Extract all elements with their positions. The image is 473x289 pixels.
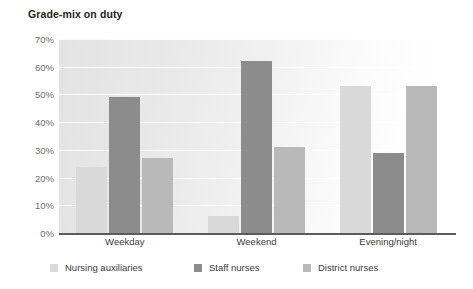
x-axis-line [59,233,456,235]
bar [76,167,107,234]
legend-swatch-icon [194,264,202,272]
y-axis-tick-label: 20% [2,172,54,183]
bar [340,86,371,233]
legend-swatch-icon [50,264,58,272]
chart-legend: Nursing auxiliariesStaff nursesDistrict … [0,262,473,278]
y-axis-tick-label: 70% [2,34,54,45]
legend-swatch-icon [303,264,311,272]
bar-group [340,39,437,233]
bar [274,147,305,233]
x-axis-labels: WeekdayWeekendEvening/night [59,236,454,252]
bar [241,61,272,233]
bar [373,153,404,233]
y-axis-tick-label: 50% [2,89,54,100]
x-axis-tick-label: Weekday [105,236,144,247]
legend-item: Nursing auxiliaries [50,262,143,273]
bar [142,158,173,233]
y-axis-tick-label: 60% [2,61,54,72]
chart-container: Grade-mix on duty 0%10%20%30%40%50%60%70… [0,0,473,289]
legend-label: Nursing auxiliaries [65,262,143,273]
legend-label: Staff nurses [209,262,260,273]
y-axis-tick-label: 40% [2,117,54,128]
legend-item: Staff nurses [194,262,260,273]
plot-area [59,39,454,233]
legend-item: District nurses [303,262,378,273]
bar [406,86,437,233]
y-axis-tick-label: 10% [2,200,54,211]
bar-group [208,39,305,233]
y-axis: 0%10%20%30%40%50%60%70% [0,39,54,233]
bar [109,97,140,233]
y-axis-tick-label: 30% [2,144,54,155]
bars-layer [59,39,454,233]
legend-label: District nurses [318,262,378,273]
y-axis-tick-label: 0% [2,228,54,239]
x-axis-tick-label: Evening/night [359,236,417,247]
bar [208,216,239,233]
chart-title: Grade-mix on duty [28,8,122,20]
bar-group [76,39,173,233]
x-axis-tick-label: Weekend [237,236,277,247]
